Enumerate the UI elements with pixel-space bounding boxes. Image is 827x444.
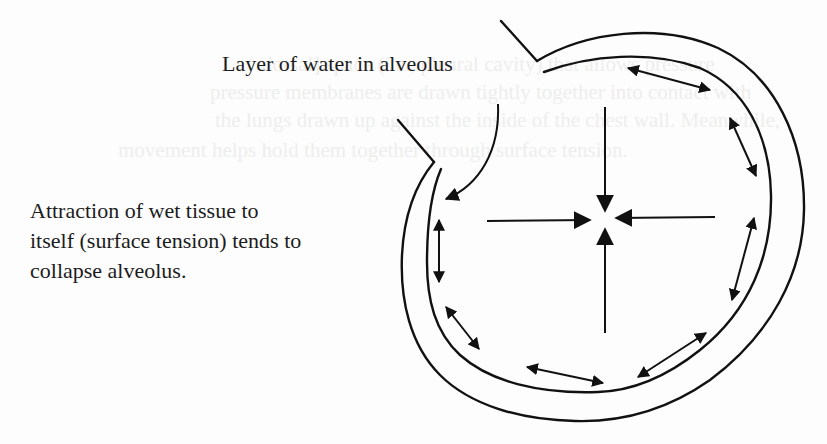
caption-line: itself (surface tension) tends to xyxy=(30,226,301,256)
tension-arrow-bottom xyxy=(527,367,603,383)
caption-line: Attraction of wet tissue to xyxy=(30,196,301,226)
surface-tension-caption: Attraction of wet tissue to itself (surf… xyxy=(30,196,301,286)
arrow-from-left xyxy=(487,220,590,221)
caption-line: collapse alveolus. xyxy=(30,256,301,286)
tension-arrow-upper-right xyxy=(730,118,756,176)
tension-arrow-top xyxy=(628,68,710,90)
water-layer-pointer-arrow xyxy=(446,104,498,199)
alveolus-outer-wall xyxy=(398,21,804,421)
wall-tension-arrows xyxy=(439,68,756,383)
tension-arrow-lower-left xyxy=(446,307,479,349)
outer-wall-curve xyxy=(402,33,804,421)
water-layer-label: Layer of water in alveolus xyxy=(222,49,453,79)
alveolus-inner-wall xyxy=(427,57,771,393)
center-collapse-arrows xyxy=(487,107,715,333)
airway-line-right xyxy=(501,21,537,61)
inner-wall-curve xyxy=(427,57,771,393)
arrow-from-right xyxy=(616,217,715,218)
airway-line-left xyxy=(398,120,434,162)
